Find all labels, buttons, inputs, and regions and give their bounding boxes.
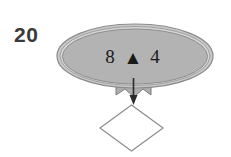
decision-diamond[interactable] bbox=[100, 105, 163, 151]
figure-container: 20 8 ▲ 4 bbox=[0, 0, 231, 157]
diamond-shape bbox=[100, 105, 163, 151]
arrow-head bbox=[130, 95, 138, 105]
diagram-canvas: 8 ▲ 4 bbox=[0, 0, 231, 157]
ellipse-left-value: 8 bbox=[105, 46, 115, 67]
filled-triangle-icon: ▲ bbox=[124, 47, 143, 68]
ellipse-right-value: 4 bbox=[150, 46, 160, 67]
ellipse-node[interactable]: 8 ▲ 4 bbox=[57, 24, 213, 88]
